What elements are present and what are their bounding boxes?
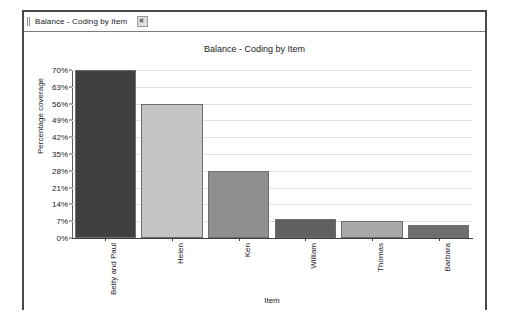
- y-tick-label: 0%: [56, 234, 68, 243]
- y-tick-label: 35%: [52, 150, 68, 159]
- x-tick-mark: [239, 238, 240, 241]
- tab-bar: Balance - Coding by Item: [24, 12, 485, 32]
- y-tick-mark: [69, 70, 72, 71]
- x-tick-label: Betty and Paul: [109, 243, 118, 295]
- y-tick-mark: [69, 221, 72, 222]
- bar-barbara[interactable]: [408, 225, 469, 238]
- y-axis-title: Percentage coverage: [36, 78, 45, 154]
- y-tick-mark: [69, 238, 72, 239]
- y-tick-mark: [69, 120, 72, 121]
- x-tick-mark: [305, 238, 306, 241]
- x-tick-label: Helen: [176, 243, 185, 264]
- tab-label: Balance - Coding by Item: [35, 17, 127, 26]
- bar-william[interactable]: [275, 219, 336, 238]
- y-tick-label: 42%: [52, 133, 68, 142]
- y-tick-label: 56%: [52, 99, 68, 108]
- x-tick-label: Ken: [243, 243, 252, 257]
- x-tick-label: William: [309, 243, 318, 269]
- bar-helen[interactable]: [141, 104, 202, 238]
- y-tick-label: 7%: [56, 217, 68, 226]
- x-tick-label: Thomas: [376, 243, 385, 272]
- x-tick-mark: [172, 238, 173, 241]
- x-tick-mark: [439, 238, 440, 241]
- drag-grip-icon: [26, 17, 31, 26]
- bar-ken[interactable]: [208, 171, 269, 238]
- bar-thomas[interactable]: [341, 221, 402, 238]
- x-tick-mark: [372, 238, 373, 241]
- tab-balance-coding-by-item[interactable]: Balance - Coding by Item: [24, 13, 152, 31]
- y-tick-mark: [69, 187, 72, 188]
- plot-area: 0%7%14%21%28%35%42%49%56%63%70%Betty and…: [72, 70, 472, 238]
- y-tick-label: 14%: [52, 200, 68, 209]
- close-icon[interactable]: [137, 16, 148, 27]
- chart-window: Balance - Coding by Item Balance - Codin…: [22, 10, 487, 310]
- chart-title: Balance - Coding by Item: [24, 44, 485, 54]
- y-tick-label: 21%: [52, 183, 68, 192]
- y-tick-mark: [69, 103, 72, 104]
- y-tick-label: 49%: [52, 116, 68, 125]
- x-axis-line: [72, 238, 473, 239]
- screenshot-root: Balance - Coding by Item Balance - Codin…: [0, 0, 507, 327]
- y-tick-label: 28%: [52, 166, 68, 175]
- y-tick-mark: [69, 154, 72, 155]
- x-tick-mark: [105, 238, 106, 241]
- y-tick-label: 63%: [52, 82, 68, 91]
- y-tick-label: 70%: [52, 66, 68, 75]
- x-axis-title: Item: [72, 296, 472, 305]
- y-tick-mark: [69, 170, 72, 171]
- y-tick-mark: [69, 137, 72, 138]
- x-tick-label: Barbara: [443, 243, 452, 271]
- y-tick-mark: [69, 204, 72, 205]
- chart-canvas: Balance - Coding by Item Percentage cove…: [24, 32, 485, 310]
- y-tick-mark: [69, 86, 72, 87]
- bar-betty-and-paul[interactable]: [75, 70, 136, 238]
